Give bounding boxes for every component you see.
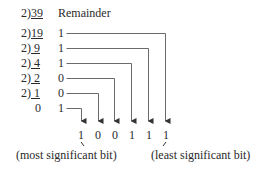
- msb-pointer: [81, 142, 84, 146]
- result-bit-4: 1: [146, 129, 152, 141]
- result-bit-2: 0: [112, 129, 118, 141]
- connector-row-4: [67, 79, 115, 122]
- connector-lines: [0, 0, 258, 169]
- connector-row-1: [67, 34, 166, 122]
- msb-label: (most significant bit): [16, 149, 117, 161]
- lsb-pointer: [163, 142, 166, 146]
- result-bit-1: 0: [95, 129, 101, 141]
- result-bit-5: 1: [163, 129, 169, 141]
- connector-row-5: [67, 94, 99, 122]
- connector-row-2: [67, 49, 149, 122]
- result-bit-0: 1: [78, 129, 84, 141]
- result-bit-3: 1: [129, 129, 135, 141]
- lsb-label: (least significant bit): [151, 149, 250, 161]
- connector-row-6: [67, 109, 82, 122]
